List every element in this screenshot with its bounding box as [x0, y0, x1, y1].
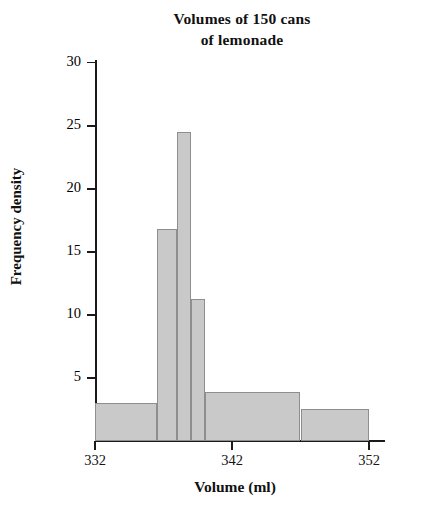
- histogram-bar: [205, 392, 301, 441]
- histogram-bars: [0, 0, 424, 518]
- x-axis-title: Volume (ml): [95, 478, 375, 496]
- histogram-figure: Volumes of 150 cans of lemonade 51015202…: [0, 0, 424, 518]
- histogram-bar: [301, 409, 370, 441]
- histogram-bar: [177, 132, 191, 441]
- histogram-bar: [95, 403, 157, 441]
- y-axis-title: Frequency density: [8, 127, 25, 327]
- histogram-bar: [191, 299, 205, 441]
- histogram-bar: [157, 229, 178, 441]
